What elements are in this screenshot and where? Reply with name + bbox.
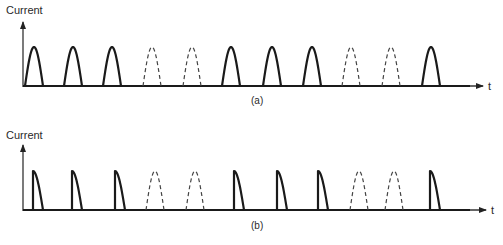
- pulse-skipped: [350, 171, 368, 210]
- pulse-skipped: [146, 171, 164, 210]
- pulse-chopped: [115, 171, 125, 210]
- pulse-chopped: [318, 171, 328, 210]
- pulse-solid: [25, 47, 43, 86]
- pulse-chopped: [234, 171, 244, 210]
- pulse-skipped: [183, 47, 201, 86]
- pulse-train-b: [23, 171, 470, 210]
- pulse-chopped: [72, 171, 82, 210]
- y-axis-label-a: Current: [6, 4, 43, 16]
- pulse-solid: [263, 47, 281, 86]
- y-axis-label-b: Current: [6, 129, 43, 141]
- pulse-chopped: [33, 171, 43, 210]
- pulse-solid: [303, 47, 321, 86]
- pulse-skipped: [143, 47, 161, 86]
- pulse-skipped: [342, 47, 360, 86]
- pulse-skipped: [186, 171, 204, 210]
- x-axis-label-b: t: [491, 204, 494, 216]
- pulse-solid: [64, 47, 82, 86]
- pulse-skipped: [382, 47, 400, 86]
- pulse-solid: [222, 47, 240, 86]
- panel-a: Current t (a): [6, 4, 491, 106]
- panel-b: Current t (b): [6, 129, 494, 231]
- x-axis-label-a: t: [488, 80, 491, 92]
- pulse-skipped: [385, 171, 403, 210]
- pulse-chopped: [277, 171, 287, 210]
- pulse-solid: [103, 47, 121, 86]
- diagram-canvas: Current t (a) Current t (b): [0, 0, 503, 245]
- caption-b: (b): [251, 220, 263, 231]
- pulse-train-a: [23, 47, 470, 86]
- pulse-solid: [422, 47, 440, 86]
- pulse-chopped: [430, 171, 440, 210]
- caption-a: (a): [251, 95, 263, 106]
